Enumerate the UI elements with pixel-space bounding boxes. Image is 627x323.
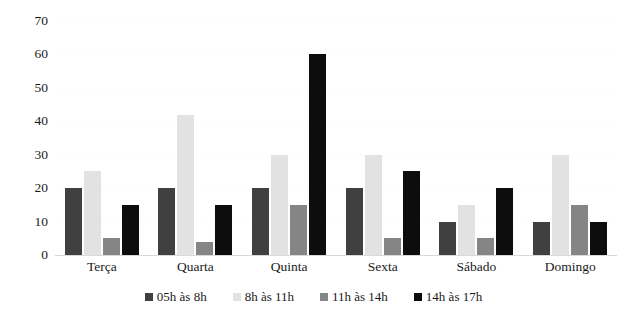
- y-axis-tick-label: 30: [8, 148, 48, 162]
- x-axis-tick-label: Terça: [55, 259, 149, 275]
- bar: [496, 188, 513, 255]
- bar-group: [55, 21, 149, 255]
- y-axis-tick-label: 60: [8, 48, 48, 62]
- x-axis-labels: TerçaQuartaQuintaSextaSábadoDomingo: [55, 259, 617, 279]
- legend-swatch-icon: [233, 293, 241, 301]
- x-axis-tick-label: Sábado: [430, 259, 524, 275]
- y-axis-tick-label: 70: [8, 14, 48, 28]
- plot-area: [55, 21, 617, 255]
- bar: [177, 115, 194, 255]
- bar-group: [336, 21, 430, 255]
- legend-swatch-icon: [145, 293, 153, 301]
- legend-item: 11h às 14h: [320, 290, 388, 303]
- bar: [84, 171, 101, 255]
- bar: [65, 188, 82, 255]
- bar: [384, 238, 401, 255]
- y-axis-tick-label: 20: [8, 181, 48, 195]
- y-axis-tick-label: 50: [8, 81, 48, 95]
- bar: [590, 222, 607, 255]
- bar: [458, 205, 475, 255]
- bar: [403, 171, 420, 255]
- bar: [439, 222, 456, 255]
- legend-swatch-icon: [320, 293, 328, 301]
- bar: [122, 205, 139, 255]
- bar: [158, 188, 175, 255]
- bar: [290, 205, 307, 255]
- bar: [252, 188, 269, 255]
- bar: [533, 222, 550, 255]
- bar-group: [149, 21, 243, 255]
- legend-label: 05h às 8h: [157, 290, 207, 303]
- x-axis-tick-label: Sexta: [336, 259, 430, 275]
- y-axis-tick-label: 40: [8, 115, 48, 129]
- legend-label: 11h às 14h: [332, 290, 388, 303]
- bar: [196, 242, 213, 255]
- bar: [103, 238, 120, 255]
- bar: [477, 238, 494, 255]
- y-axis-tick-label: 10: [8, 215, 48, 229]
- axis-baseline: [55, 255, 617, 256]
- legend-label: 8h às 11h: [245, 290, 294, 303]
- legend-item: 8h às 11h: [233, 290, 294, 303]
- legend-item: 14h às 17h: [414, 290, 482, 303]
- legend-label: 14h às 17h: [426, 290, 482, 303]
- legend-item: 05h às 8h: [145, 290, 207, 303]
- chart-legend: 05h às 8h8h às 11h11h às 14h14h às 17h: [0, 290, 627, 303]
- bar: [309, 54, 326, 255]
- legend-swatch-icon: [414, 293, 422, 301]
- bar: [571, 205, 588, 255]
- bar: [365, 155, 382, 255]
- bar-group: [242, 21, 336, 255]
- y-axis-tick-label: 0: [8, 248, 48, 262]
- x-axis-tick-label: Domingo: [523, 259, 617, 275]
- bar-group: [523, 21, 617, 255]
- bar: [215, 205, 232, 255]
- bar-chart: 010203040506070 TerçaQuartaQuintaSextaSá…: [0, 0, 627, 323]
- bar: [271, 155, 288, 255]
- x-axis-tick-label: Quarta: [149, 259, 243, 275]
- bar: [552, 155, 569, 255]
- x-axis-tick-label: Quinta: [242, 259, 336, 275]
- y-axis: 010203040506070: [0, 21, 48, 255]
- bar-group: [430, 21, 524, 255]
- bar: [346, 188, 363, 255]
